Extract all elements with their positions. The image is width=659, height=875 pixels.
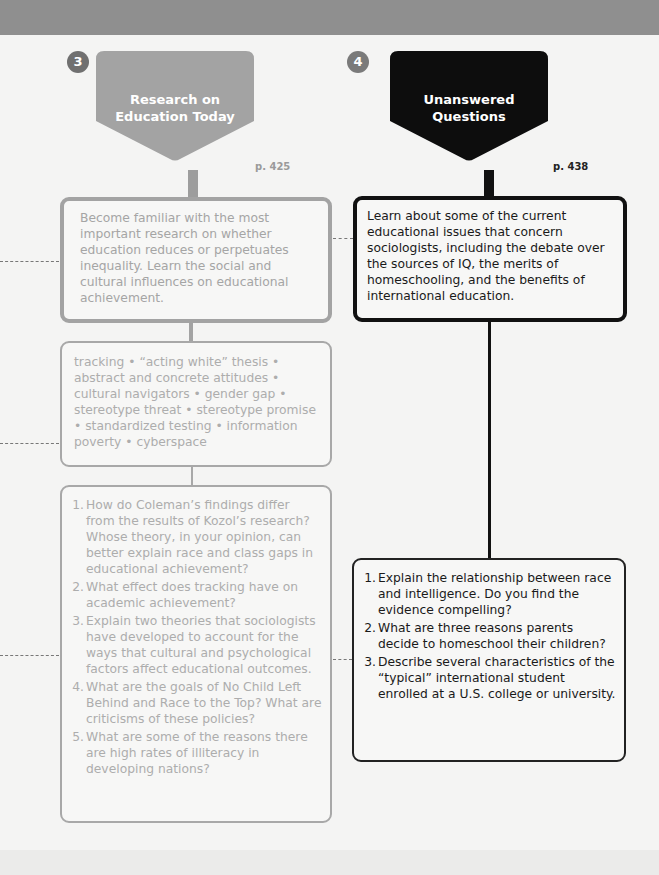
question-number: 1. xyxy=(358,570,376,586)
section-4-question-list: 1.Explain the relationship between race … xyxy=(358,570,616,702)
question-item: 3.Explain two theories that sociologists… xyxy=(66,613,322,677)
question-item: 1.Explain the relationship between race … xyxy=(358,570,616,618)
question-item: 1.How do Coleman’s findings differ from … xyxy=(66,497,322,577)
section-3-connector xyxy=(188,170,198,200)
section-3-title: Research on Education Today xyxy=(96,91,254,125)
section-3-page-ref[interactable]: p. 425 xyxy=(255,161,290,172)
question-text: What effect does tracking have on academ… xyxy=(86,580,298,610)
question-number: 4. xyxy=(66,679,84,695)
question-text: What are the goals of No Child Left Behi… xyxy=(86,680,321,726)
dashed-connector xyxy=(333,659,352,660)
question-number: 2. xyxy=(358,620,376,636)
section-4-connector-2 xyxy=(488,320,491,560)
question-text: How do Coleman’s findings differ from th… xyxy=(86,498,313,576)
question-item: 4.What are the goals of No Child Left Be… xyxy=(66,679,322,727)
section-3-title-line2: Education Today xyxy=(96,108,254,125)
section-3-key-terms-box: tracking • “acting white” thesis • abstr… xyxy=(60,341,332,467)
section-3-banner: Research on Education Today xyxy=(96,51,254,161)
section-4-title-line2: Questions xyxy=(390,108,548,125)
question-number: 3. xyxy=(358,654,376,670)
dashed-connector xyxy=(0,443,59,444)
header-band xyxy=(0,0,659,35)
question-item: 2.What are three reasons parents decide … xyxy=(358,620,616,652)
section-4-number-badge: 4 xyxy=(347,51,369,73)
section-4-goal-box: Learn about some of the current educatio… xyxy=(353,196,627,322)
section-3-question-list: 1.How do Coleman’s findings differ from … xyxy=(66,497,322,777)
question-text: What are some of the reasons there are h… xyxy=(86,730,308,776)
question-text: Explain the relationship between race an… xyxy=(378,571,611,617)
section-4-questions-box: 1.Explain the relationship between race … xyxy=(352,558,626,762)
question-item: 5.What are some of the reasons there are… xyxy=(66,729,322,777)
dashed-connector xyxy=(0,655,59,656)
dashed-connector xyxy=(0,261,59,262)
question-number: 3. xyxy=(66,613,84,629)
section-4-banner: Unanswered Questions xyxy=(390,51,548,161)
question-number: 1. xyxy=(66,497,84,513)
section-4-goal-text: Learn about some of the current educatio… xyxy=(367,208,613,304)
section-3-number-badge: 3 xyxy=(67,51,89,73)
footer-band xyxy=(0,850,659,875)
question-text: Describe several characteristics of the … xyxy=(378,655,615,701)
section-3-connector-3 xyxy=(191,465,193,487)
question-number: 5. xyxy=(66,729,84,745)
question-text: Explain two theories that sociologists h… xyxy=(86,614,316,676)
section-3-goal-box: Become familiar with the most important … xyxy=(60,197,332,323)
section-3-title-line1: Research on xyxy=(96,91,254,108)
section-3-questions-box: 1.How do Coleman’s findings differ from … xyxy=(60,485,332,823)
section-3-goal-text: Become familiar with the most important … xyxy=(80,210,318,306)
section-4-title-line1: Unanswered xyxy=(390,91,548,108)
question-number: 2. xyxy=(66,579,84,595)
dashed-connector xyxy=(333,238,353,239)
section-4-title: Unanswered Questions xyxy=(390,91,548,125)
question-item: 3.Describe several characteristics of th… xyxy=(358,654,616,702)
question-item: 2.What effect does tracking have on acad… xyxy=(66,579,322,611)
section-4-page-ref[interactable]: p. 438 xyxy=(553,161,588,172)
question-text: What are three reasons parents decide to… xyxy=(378,621,606,651)
section-3-key-terms-text: tracking • “acting white” thesis • abstr… xyxy=(74,354,320,450)
